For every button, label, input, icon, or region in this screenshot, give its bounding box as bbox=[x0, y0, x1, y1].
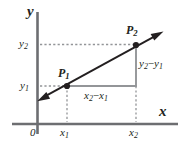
x-tick-label-x2: x2 bbox=[129, 127, 138, 140]
rise-leg-label: y2−y1 bbox=[139, 58, 163, 71]
x-tick-x1-sub: 1 bbox=[65, 131, 69, 140]
point-p2-marker bbox=[133, 42, 139, 48]
y-tick-label-y2: y2 bbox=[19, 38, 28, 51]
y-tick-y2-sub: 2 bbox=[24, 42, 28, 51]
y-axis-label: y bbox=[27, 4, 34, 19]
point-p1-sub: 1 bbox=[65, 71, 69, 81]
x-axis-label: x bbox=[159, 104, 167, 119]
slope-diagram: y x 0 x1 x2 y1 y2 P1 P2 x2−x1 y2−y1 bbox=[0, 0, 185, 148]
arrowhead-upper-right bbox=[151, 32, 164, 41]
run-second-sub: 1 bbox=[104, 94, 108, 103]
x-tick-x2-sub: 2 bbox=[134, 131, 138, 140]
arrowhead-lower-left bbox=[37, 92, 50, 101]
point-p1-marker bbox=[64, 83, 70, 89]
rise-second-sub: 1 bbox=[159, 62, 163, 71]
run-leg-label: x2−x1 bbox=[84, 90, 108, 103]
y-tick-label-y1: y1 bbox=[20, 80, 29, 93]
y-tick-y1-sub: 1 bbox=[25, 84, 29, 93]
x-tick-label-x1: x1 bbox=[60, 127, 69, 140]
diagram-canvas bbox=[0, 0, 185, 148]
origin-label: 0 bbox=[30, 127, 36, 138]
point-label-p1: P1 bbox=[58, 67, 70, 81]
point-label-p2: P2 bbox=[126, 24, 138, 38]
point-p2-sub: 2 bbox=[133, 28, 137, 38]
